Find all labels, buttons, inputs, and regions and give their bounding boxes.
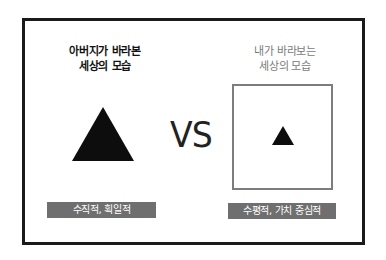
right-caption-line2: 세상의 모습	[230, 59, 340, 74]
small-triangle-icon	[272, 126, 294, 145]
left-caption-line1: 아버지가 바라본	[50, 44, 160, 59]
left-label: 수직적, 획일적	[47, 202, 156, 218]
left-caption-line2: 세상의 모습	[50, 59, 160, 74]
left-caption: 아버지가 바라본 세상의 모습	[50, 44, 160, 74]
right-caption-line1: 내가 바라보는	[230, 44, 340, 59]
right-label: 수평적, 가치 중심적	[228, 203, 336, 219]
large-triangle-icon	[72, 107, 134, 161]
versus-text: VS	[170, 116, 212, 154]
right-caption: 내가 바라보는 세상의 모습	[230, 44, 340, 74]
